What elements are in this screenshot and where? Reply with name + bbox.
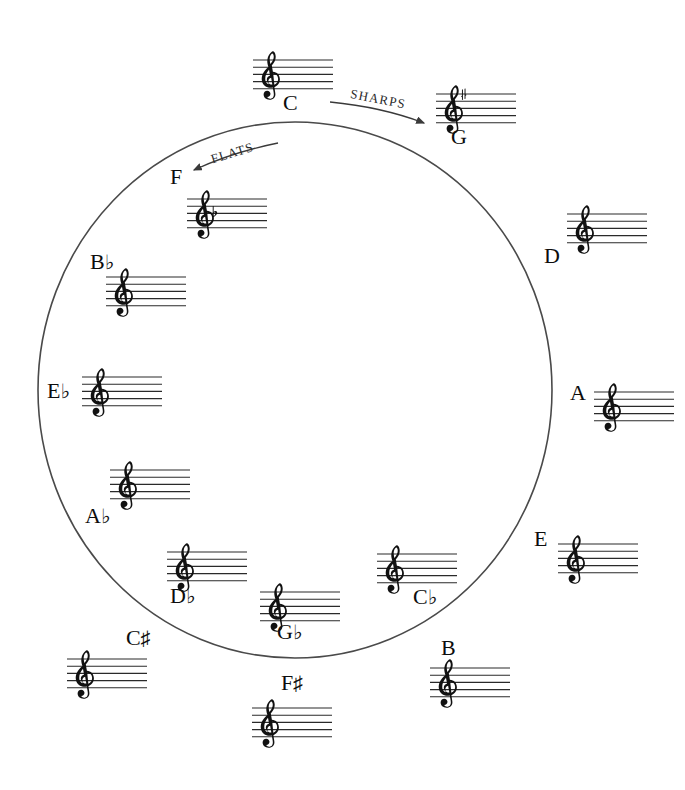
treble-clef-icon xyxy=(386,545,404,594)
staff-f-major xyxy=(185,185,269,247)
staff-b-major xyxy=(428,654,512,716)
key-letter: E xyxy=(534,526,547,551)
staff-d-major xyxy=(565,200,649,262)
staff-wrapper-c-sharp-major xyxy=(65,645,149,707)
staff-a-flat-major xyxy=(108,456,192,518)
sharp-accidental-icon: ♯ xyxy=(293,672,303,694)
staff-wrapper-e-major xyxy=(556,530,640,592)
treble-clef-icon xyxy=(196,190,214,239)
key-letter: C xyxy=(126,625,141,650)
key-letter: F xyxy=(170,164,182,189)
key-label-c-major: C xyxy=(283,92,298,114)
key-letter: C xyxy=(413,584,428,609)
key-signature-flat xyxy=(213,206,217,218)
staff-c-sharp-major xyxy=(65,645,149,707)
key-label-a-flat-major: A♭ xyxy=(85,505,110,527)
treble-clef-icon xyxy=(261,699,279,748)
staff-wrapper-f-major xyxy=(185,185,269,247)
key-label-g-major: G xyxy=(451,126,467,148)
sharp-accidental-icon: ♯ xyxy=(141,627,151,649)
staff-wrapper-b-major xyxy=(428,654,512,716)
key-letter: B xyxy=(441,635,456,660)
key-label-c-sharp-major: C♯ xyxy=(126,627,151,649)
key-label-f-sharp-major: F♯ xyxy=(281,672,303,694)
flat-accidental-icon: ♭ xyxy=(101,505,110,527)
key-label-e-major: E xyxy=(534,528,547,550)
key-letter: B xyxy=(90,249,105,274)
staff-g-major xyxy=(434,80,518,142)
treble-clef-icon xyxy=(603,383,621,432)
key-letter: C xyxy=(283,90,298,115)
key-letter: G xyxy=(451,124,467,149)
key-label-b-flat-major: B♭ xyxy=(90,251,114,273)
key-letter: D xyxy=(170,583,186,608)
treble-clef-icon xyxy=(115,268,133,317)
staff-wrapper-d-major xyxy=(565,200,649,262)
key-letter: A xyxy=(85,503,101,528)
staff-wrapper-g-major xyxy=(434,80,518,142)
staff-wrapper-a-major xyxy=(592,378,676,440)
treble-clef-icon xyxy=(439,659,457,708)
staff-b-flat-major xyxy=(104,263,188,325)
staff-wrapper-e-flat-major xyxy=(80,363,164,425)
key-letter: F xyxy=(281,670,293,695)
circle-of-fifths-diagram: SHARPS FLATS CGDAEBF♯C♯G♭C♭D♭A♭E♭B♭F xyxy=(0,0,685,790)
key-letter: A xyxy=(570,380,586,405)
staff-f-sharp-major xyxy=(250,694,334,756)
treble-clef-icon xyxy=(76,650,94,699)
key-label-d-major: D xyxy=(544,245,560,267)
key-letter: D xyxy=(544,243,560,268)
key-letter: G xyxy=(277,619,293,644)
flat-accidental-icon: ♭ xyxy=(186,585,195,607)
staff-wrapper-a-flat-major xyxy=(108,456,192,518)
key-label-e-flat-major: E♭ xyxy=(47,380,70,402)
staff-wrapper-b-flat-major xyxy=(104,263,188,325)
treble-clef-icon xyxy=(91,368,109,417)
key-label-g-flat-major: G♭ xyxy=(277,621,302,643)
key-label-f-major: F xyxy=(170,166,182,188)
key-label-b-major: B xyxy=(441,637,456,659)
key-label-a-major: A xyxy=(570,382,586,404)
staff-a-major xyxy=(592,378,676,440)
staff-e-major xyxy=(556,530,640,592)
staff-wrapper-f-sharp-major xyxy=(250,694,334,756)
flat-accidental-icon: ♭ xyxy=(428,586,437,608)
key-label-c-flat-major: C♭ xyxy=(413,586,437,608)
flat-accidental-icon: ♭ xyxy=(293,621,302,643)
treble-clef-icon xyxy=(576,205,594,254)
treble-clef-icon xyxy=(567,535,585,584)
key-label-d-flat-major: D♭ xyxy=(170,585,195,607)
flat-symbol xyxy=(213,206,217,218)
staff-e-flat-major xyxy=(80,363,164,425)
key-letter: E xyxy=(47,378,60,403)
flat-accidental-icon: ♭ xyxy=(60,380,69,402)
treble-clef-icon xyxy=(119,461,137,510)
flat-accidental-icon: ♭ xyxy=(105,251,114,273)
treble-clef-icon xyxy=(262,51,280,100)
